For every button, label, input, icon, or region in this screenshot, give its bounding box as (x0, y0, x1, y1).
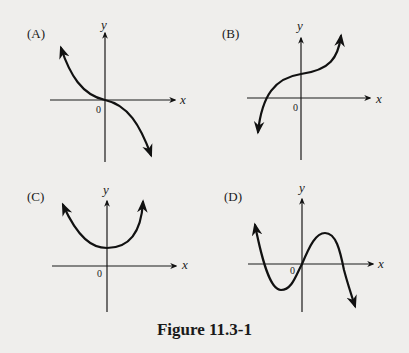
panel-d-curve (255, 225, 355, 306)
panel-b-y-label: y (295, 18, 303, 33)
panel-c-origin-label: 0 (97, 268, 102, 279)
panel-b-label: (B) (222, 26, 239, 41)
panel-b-origin-label: 0 (293, 102, 298, 113)
panel-c-y-label: y (101, 182, 109, 197)
panel-d-label: (D) (224, 189, 242, 204)
panel-a-origin-label: 0 (96, 104, 101, 115)
panel-d: (D) y x 0 (224, 180, 384, 312)
panel-c: (C) y x 0 (27, 182, 188, 312)
panel-a-curve (61, 48, 151, 155)
panel-a-y-label: y (99, 17, 107, 32)
figure-caption: Figure 11.3-1 (0, 320, 409, 340)
figure-canvas: (A) y x 0 (B) y x 0 (C) y x 0 (D) y x 0 (0, 0, 409, 353)
panel-c-label: (C) (27, 189, 44, 204)
panel-d-y-label: y (297, 180, 305, 195)
panel-c-x-label: x (181, 257, 188, 272)
panel-c-curve (63, 202, 143, 248)
panel-d-x-label: x (377, 256, 384, 271)
panel-a-label: (A) (27, 26, 45, 41)
panel-b-curve (258, 36, 341, 132)
panel-d-origin-label: 0 (290, 265, 295, 276)
panel-b-x-label: x (375, 91, 382, 106)
panel-a: (A) y x 0 (27, 17, 186, 162)
panel-a-x-label: x (179, 92, 186, 107)
panel-b: (B) y x 0 (222, 18, 382, 160)
